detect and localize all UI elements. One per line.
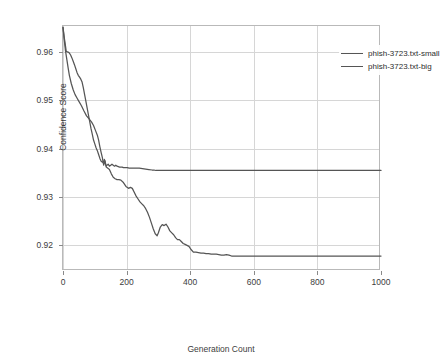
x-axis-title: Generation Count [63,344,379,354]
y-tick-mark [59,245,63,246]
legend-line-swatch-big [341,66,363,67]
x-tick-mark [381,271,382,275]
data-curves [63,26,381,271]
x-tick-label: 1000 [361,278,401,287]
y-axis-title: Confidence Score [58,83,68,151]
y-tick-label: 0.95 [13,96,53,105]
legend-label-big: phish-3723.txt-big [368,62,432,71]
y-tick-mark [59,52,63,53]
series-line-big [63,27,381,170]
legend-item-big: phish-3723.txt-big [341,60,440,73]
x-tick-label: 400 [170,278,210,287]
x-tick-label: 0 [43,278,83,287]
y-tick-mark [59,197,63,198]
x-tick-mark [127,271,128,275]
legend-label-small: phish-3723.txt-small [368,49,440,58]
legend-item-small: phish-3723.txt-small [341,47,440,60]
legend-line-swatch-small [341,53,363,54]
x-tick-label: 600 [234,278,274,287]
y-tick-label: 0.96 [13,48,53,57]
y-tick-label: 0.92 [13,241,53,250]
x-tick-mark [317,271,318,275]
x-tick-label: 200 [107,278,147,287]
y-tick-label: 0.93 [13,193,53,202]
x-tick-mark [254,271,255,275]
plot-area: 0.920.930.940.950.96 02004006008001000 C… [62,25,380,270]
series-line-small [63,27,381,256]
x-tick-mark [63,271,64,275]
chart-legend: phish-3723.txt-small phish-3723.txt-big [339,45,443,75]
x-tick-mark [190,271,191,275]
y-tick-label: 0.94 [13,145,53,154]
x-tick-label: 800 [297,278,337,287]
